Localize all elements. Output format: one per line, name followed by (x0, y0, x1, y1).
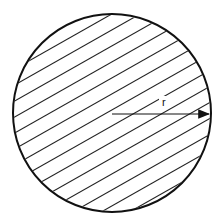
hatch-lines (0, 0, 219, 224)
radius-label: r (162, 96, 166, 108)
hatched-circle-diagram: r (0, 0, 219, 224)
circle-outline (13, 14, 211, 212)
